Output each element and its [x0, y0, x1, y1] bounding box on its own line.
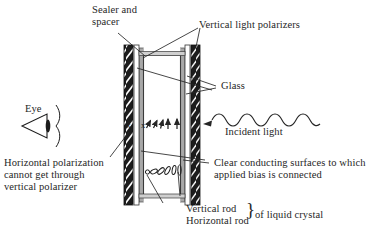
label-incident-light: Incident light [225, 126, 283, 138]
right-glass-plate [185, 45, 190, 205]
label-horizontal-polarization-line3: vertical polarizer [4, 181, 77, 193]
lcd-cross-section-drawing: x x [0, 0, 384, 232]
curly-brace-icon: } [246, 200, 255, 219]
label-eye: Eye [25, 103, 42, 115]
label-glass: Glass [221, 80, 245, 92]
label-horizontal-polarization-line2: cannot get through [4, 169, 85, 181]
label-clear-conducting-line2: applied bias is connected [214, 169, 322, 181]
right-vertical-polarizer [191, 45, 200, 205]
label-clear-conducting-line1: Clear conducting surfaces to which [214, 157, 366, 169]
label-vertical-rod: Vertical rod [186, 203, 236, 215]
label-sealer-and-spacer-line2: spacer [92, 16, 119, 28]
label-vertical-light-polarizers: Vertical light polarizers [199, 19, 300, 31]
incident-light-wave-icon [203, 114, 320, 127]
label-horizontal-polarization-line1: Horizontal polarization [4, 157, 104, 169]
right-conducting-surface [181, 48, 185, 202]
label-sealer-and-spacer-line1: Sealer and [92, 4, 137, 16]
label-of-liquid-crystal: of liquid crystal [255, 209, 323, 221]
left-glass-plate [134, 45, 139, 205]
label-horizontal-rod: Horizontal rod [186, 215, 249, 227]
lcd-diagram-figure: x x [0, 0, 384, 232]
